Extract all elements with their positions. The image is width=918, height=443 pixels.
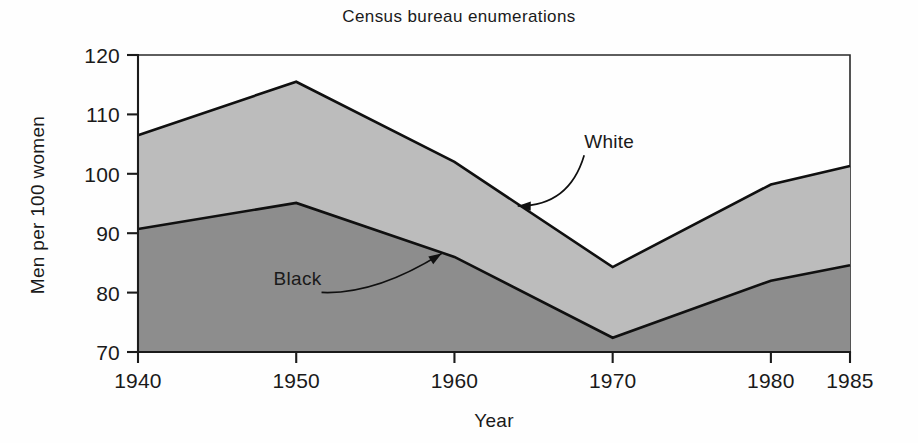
x-tick-label: 1950 [272,369,320,392]
annotation-label: White [584,131,634,152]
y-tick-label: 120 [84,44,120,67]
y-tick-label: 110 [86,103,120,126]
x-tick-label: 1970 [589,369,637,392]
annotation-white: White [518,131,635,210]
y-axis-tick-labels: 708090100110120 [84,44,120,364]
area-chart: Census bureau enumerations 7080901001101… [0,0,918,443]
x-axis-title: Year [474,410,514,431]
x-axis-tick-labels: 194019501960197019801985 [114,369,874,392]
y-axis-title: Men per 100 women [27,116,48,294]
series-areas [138,82,850,352]
x-tick-label: 1960 [431,369,479,392]
annotation-arrow [518,155,584,206]
x-tick-label: 1980 [747,369,795,392]
chart-title: Census bureau enumerations [342,7,575,26]
x-tick-label: 1985 [826,369,874,392]
y-tick-label: 70 [96,341,120,364]
chart-figure: Census bureau enumerations 7080901001101… [0,0,918,443]
y-axis-ticks [127,55,138,352]
y-tick-label: 90 [96,222,120,245]
y-tick-label: 100 [84,163,120,186]
y-tick-label: 80 [96,282,120,305]
annotation-label: Black [274,268,322,289]
x-axis-ticks [138,352,850,363]
x-tick-label: 1940 [114,369,162,392]
